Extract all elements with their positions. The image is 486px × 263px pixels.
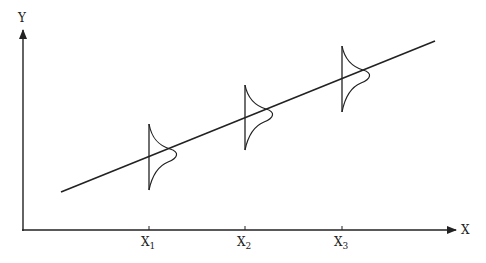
regression-line xyxy=(61,41,435,192)
x-axis-label: X xyxy=(461,223,470,237)
tick-label-x1: X1 xyxy=(141,235,155,251)
y-axis-label: Y xyxy=(17,11,27,25)
distribution-x1 xyxy=(149,124,177,190)
tick-label-x3: X3 xyxy=(334,235,349,251)
distribution-x3 xyxy=(342,46,370,112)
distribution-x2 xyxy=(245,85,273,150)
tick-label-x2: X2 xyxy=(237,235,251,251)
regression-diagram: Y X X1 X2 X3 xyxy=(0,0,486,263)
